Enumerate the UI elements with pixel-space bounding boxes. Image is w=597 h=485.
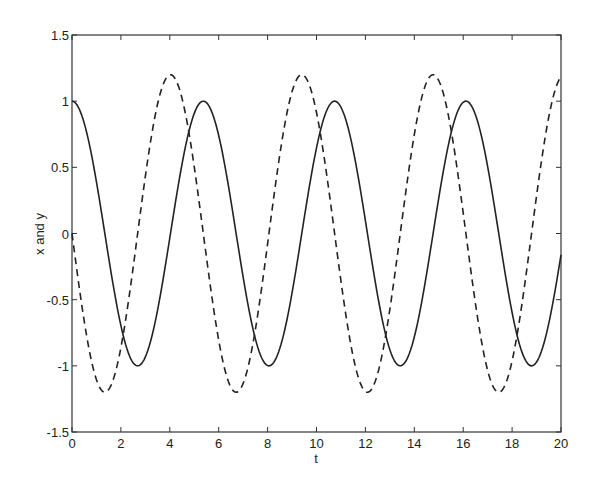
- x-axis-ticks: 02468101214161820: [68, 35, 568, 451]
- x-tick-label: 20: [554, 436, 568, 451]
- y-tick-label: -1.5: [47, 425, 69, 440]
- x-tick-label: 16: [456, 436, 470, 451]
- y-tick-label: -0.5: [47, 293, 69, 308]
- x-tick-label: 14: [407, 436, 421, 451]
- x-tick-label: 10: [309, 436, 323, 451]
- series-y-dashed-line: [72, 75, 561, 393]
- y-tick-label: 0: [62, 227, 69, 242]
- y-axis-label: x and y: [32, 213, 47, 255]
- x-tick-label: 6: [215, 436, 222, 451]
- x-tick-label: 18: [505, 436, 519, 451]
- axes-box: [72, 35, 561, 432]
- x-tick-label: 0: [68, 436, 75, 451]
- series-x-solid-line: [72, 101, 561, 366]
- x-tick-label: 4: [166, 436, 173, 451]
- x-tick-label: 12: [358, 436, 372, 451]
- y-axis-ticks: -1.5-1-0.500.511.5: [47, 28, 561, 440]
- y-tick-label: 1: [62, 94, 69, 109]
- y-tick-label: -1: [57, 359, 69, 374]
- x-axis-label: t: [314, 451, 318, 466]
- y-tick-label: 1.5: [51, 28, 69, 43]
- y-tick-label: 0.5: [51, 160, 69, 175]
- line-chart: 02468101214161820 -1.5-1-0.500.511.5 t x…: [0, 0, 597, 485]
- x-tick-label: 2: [117, 436, 124, 451]
- x-tick-label: 8: [264, 436, 271, 451]
- plot-area: 02468101214161820 -1.5-1-0.500.511.5: [47, 28, 569, 451]
